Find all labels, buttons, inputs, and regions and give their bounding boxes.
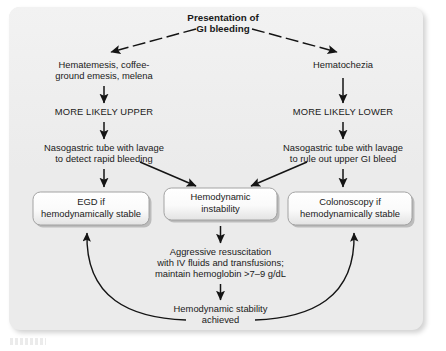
instability-box-line2: instability bbox=[201, 203, 240, 214]
diagram-title-line2: GI bleeding bbox=[196, 23, 249, 34]
colonoscopy-box-line1: Colonoscopy if bbox=[319, 196, 381, 207]
egd-box-line2: hemodynamically stable bbox=[41, 208, 141, 219]
right-ngtube-line1: Nasogastric tube with lavage bbox=[283, 142, 403, 153]
diagram-title-line1: Presentation of bbox=[187, 12, 259, 23]
right-symptoms-line1: Hematochezia bbox=[313, 59, 374, 70]
arrow-right-ngtube-to-instability bbox=[251, 162, 307, 186]
resuscitation-line2: with IV fluids and transfusions; bbox=[156, 257, 284, 268]
arrow-left-ngtube-to-instability bbox=[140, 162, 196, 186]
left-symptoms-line2: ground emesis, melena bbox=[55, 70, 153, 81]
arrow-title-to-right-branch bbox=[252, 29, 337, 52]
colonoscopy-box-line2: hemodynamically stable bbox=[300, 208, 400, 219]
left-symptoms-line1: Hematemesis, coffee- bbox=[58, 59, 149, 70]
flowchart: Presentation of GI bleeding Hematemesis,… bbox=[0, 0, 446, 351]
left-ngtube-line2: to detect rapid bleeding bbox=[55, 153, 152, 164]
right-likelihood-label: MORE LIKELY LOWER bbox=[293, 106, 393, 117]
arrow-title-to-left-branch bbox=[111, 29, 196, 52]
left-likelihood-label: MORE LIKELY UPPER bbox=[55, 106, 153, 117]
diagram-canvas: Presentation of GI bleeding Hematemesis,… bbox=[0, 0, 446, 351]
left-ngtube-line1: Nasogastric tube with lavage bbox=[44, 142, 164, 153]
resuscitation-line1: Aggressive resuscitation bbox=[170, 246, 272, 257]
resuscitation-line3: maintain hemoglobin >7–9 g/dL bbox=[155, 268, 286, 279]
egd-box-line1: EGD if bbox=[77, 196, 105, 207]
clipped-caption-remnant bbox=[10, 338, 46, 345]
instability-box-line1: Hemodynamic bbox=[191, 191, 251, 202]
stability-line1: Hemodynamic stability bbox=[174, 303, 268, 314]
stability-line2: achieved bbox=[202, 314, 240, 325]
